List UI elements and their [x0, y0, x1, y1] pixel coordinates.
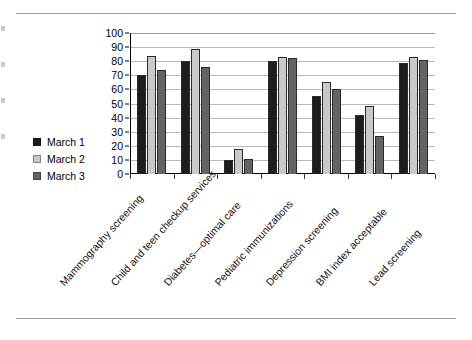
y-axis-tick-mark	[125, 131, 129, 132]
y-axis-tick-label: 90	[111, 42, 123, 53]
bar-group	[174, 33, 218, 174]
bar[interactable]	[312, 96, 321, 174]
page-rule-top	[16, 13, 456, 14]
bar[interactable]	[191, 49, 200, 174]
bar-series-container	[130, 33, 435, 174]
y-axis-tick-label: 50	[111, 98, 123, 109]
bar[interactable]	[234, 149, 243, 174]
legend-swatch-icon	[33, 138, 41, 146]
y-axis-tick-mark	[125, 159, 129, 160]
bar[interactable]	[137, 75, 146, 174]
bar[interactable]	[332, 89, 341, 174]
y-axis-tick-mark	[125, 145, 129, 146]
y-axis-tick-label: 80	[111, 56, 123, 67]
y-axis-tick-mark	[125, 47, 129, 48]
y-axis-tick-label: 70	[111, 70, 123, 81]
bar-group	[217, 33, 261, 174]
y-axis-tick-label: 20	[111, 140, 123, 151]
y-axis-tick-label: 40	[111, 112, 123, 123]
bar-group	[130, 33, 174, 174]
y-axis-tick-mark	[125, 33, 129, 34]
bar-chart-figure: March 1March 2March 3 010203040506070809…	[0, 0, 472, 340]
bar-group	[304, 33, 348, 174]
y-axis-tick-mark	[125, 117, 129, 118]
x-axis-category-label: Mammography screening	[57, 192, 145, 288]
y-axis-tick-label: 10	[111, 154, 123, 165]
bar[interactable]	[181, 61, 190, 174]
bar[interactable]	[157, 70, 166, 174]
bar[interactable]	[278, 57, 287, 174]
y-axis-tick-mark	[125, 75, 129, 76]
page-rule-bottom	[16, 318, 456, 319]
bar[interactable]	[201, 67, 210, 174]
y-axis-tick-mark	[125, 89, 129, 90]
y-axis-tick-label: 30	[111, 126, 123, 137]
x-axis-category-label: Child and teen checkup services	[108, 168, 218, 288]
margin-mark	[1, 134, 5, 139]
bar[interactable]	[244, 159, 253, 175]
bar[interactable]	[399, 63, 408, 174]
bar-group	[348, 33, 392, 174]
bar[interactable]	[375, 136, 384, 174]
y-axis-tick-mark	[125, 61, 129, 62]
plot-area: 0102030405060708090100	[130, 33, 435, 174]
bar[interactable]	[288, 58, 297, 174]
legend-item[interactable]: March 2	[33, 151, 99, 167]
bar[interactable]	[322, 82, 331, 174]
legend-swatch-icon	[33, 155, 41, 163]
bar[interactable]	[409, 57, 418, 174]
bar-group	[261, 33, 305, 174]
margin-mark	[1, 62, 5, 67]
bar[interactable]	[355, 115, 364, 174]
y-axis-tick-label: 60	[111, 84, 123, 95]
x-axis-labels: Mammography screeningChild and teen chec…	[0, 174, 472, 304]
y-axis-tick-mark	[125, 103, 129, 104]
legend-item-label: March 2	[47, 154, 85, 165]
legend-item-label: March 1	[47, 137, 85, 148]
y-axis-tick-label: 100	[105, 28, 123, 39]
bar[interactable]	[224, 160, 233, 174]
legend-item[interactable]: March 1	[33, 134, 99, 150]
bar[interactable]	[268, 61, 277, 174]
bar[interactable]	[147, 56, 156, 174]
bar[interactable]	[365, 106, 374, 174]
margin-mark	[1, 98, 5, 103]
margin-mark	[1, 26, 5, 31]
bar-group	[391, 33, 435, 174]
x-axis-category-label: Lead screening	[366, 227, 423, 288]
bar[interactable]	[419, 60, 428, 174]
